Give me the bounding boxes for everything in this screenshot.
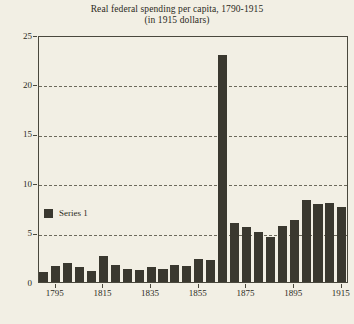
x-tick-label: 1875	[225, 288, 265, 299]
x-tick-label: 1815	[82, 288, 122, 299]
x-tick-label: 1895	[273, 288, 313, 299]
bar-1805	[75, 267, 84, 282]
bar-1820	[111, 265, 120, 282]
bar-1890	[278, 226, 287, 282]
y-tick-label: 20	[6, 81, 32, 90]
y-tick-label: 15	[6, 130, 32, 139]
bar-1855	[194, 259, 203, 282]
y-tick-mark	[33, 85, 37, 86]
bar-1830	[135, 270, 144, 282]
x-axis: 1795181518351855187518951915	[38, 284, 348, 304]
bar-1885	[266, 237, 275, 282]
bar-1840	[158, 269, 167, 282]
series-1-swatch	[44, 209, 53, 218]
bar-1810	[87, 271, 96, 282]
chart-container: Real federal spending per capita, 1790-1…	[0, 0, 354, 324]
y-tick-label: 5	[6, 229, 32, 238]
x-tick-label: 1855	[178, 288, 218, 299]
bar-1910	[325, 203, 334, 282]
bar-1795	[51, 266, 60, 282]
bar-1870	[230, 223, 239, 282]
plot-inner	[39, 37, 347, 282]
bar-1880	[254, 232, 263, 282]
x-tick-label: 1835	[130, 288, 170, 299]
legend-item-label: Series 1	[59, 209, 88, 218]
chart-legend: Series 1	[44, 209, 88, 218]
y-tick-mark	[33, 135, 37, 136]
bar-1875	[242, 227, 251, 282]
bar-1815	[99, 256, 108, 282]
bar-1865	[218, 55, 227, 282]
y-tick-label: 0	[6, 279, 32, 288]
bar-1895	[290, 220, 299, 282]
bar-1900	[302, 200, 311, 282]
bar-1915	[337, 207, 346, 282]
chart-subtitle: (in 1915 dollars)	[0, 15, 354, 26]
bar-1800	[63, 263, 72, 282]
y-tick-label: 25	[6, 32, 32, 41]
bar-1825	[123, 269, 132, 282]
bar-1845	[170, 265, 179, 282]
bar-1790	[39, 272, 48, 282]
bar-1850	[182, 266, 191, 282]
x-tick-label: 1915	[321, 288, 354, 299]
bars-layer	[39, 37, 347, 282]
y-tick-label: 10	[6, 180, 32, 189]
y-tick-mark	[33, 36, 37, 37]
chart-title: Real federal spending per capita, 1790-1…	[0, 4, 354, 15]
y-axis: 0510152025	[6, 36, 34, 283]
bar-1835	[147, 267, 156, 282]
bar-1860	[206, 260, 215, 282]
y-tick-mark	[33, 234, 37, 235]
plot-area	[38, 36, 348, 283]
x-tick-label: 1795	[35, 288, 75, 299]
chart-title-block: Real federal spending per capita, 1790-1…	[0, 4, 354, 26]
y-tick-mark	[33, 184, 37, 185]
bar-1905	[313, 204, 322, 282]
